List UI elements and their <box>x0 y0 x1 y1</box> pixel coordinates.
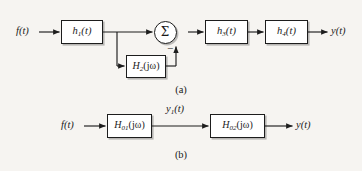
block-h2[interactable]: H2(jω) <box>126 55 166 78</box>
block-h02-label: H02(jω) <box>222 120 253 132</box>
panel-b-intermediate-label: y1(t) <box>166 104 184 116</box>
block-h4-label: h4(t) <box>277 26 296 38</box>
block-h1[interactable]: h1(t) <box>61 20 103 44</box>
panel-a-output-label: y(t) <box>331 26 346 37</box>
caption-a: (a) <box>0 85 362 96</box>
panel-b-input-label: f(t) <box>61 120 74 131</box>
sum-minus-sign: − <box>167 43 173 54</box>
panel-b-output-label: y(t) <box>296 120 311 131</box>
block-diagram-figure: f(t) h1(t) H2(jω) Σ − h3(t) h4(t) y(t) (… <box>0 0 362 171</box>
panel-a-input-label: f(t) <box>16 26 29 37</box>
sigma-symbol: Σ <box>161 25 169 39</box>
block-h02[interactable]: H02(jω) <box>210 114 265 138</box>
block-h3-label: h3(t) <box>217 26 236 38</box>
block-h4[interactable]: h4(t) <box>265 20 308 44</box>
block-h01-label: H01(jω) <box>114 120 145 132</box>
block-h3[interactable]: h3(t) <box>205 20 248 44</box>
block-h2-label: H2(jω) <box>132 61 159 73</box>
block-h01[interactable]: H01(jω) <box>107 114 152 138</box>
block-h1-label: h1(t) <box>72 26 91 38</box>
caption-b: (b) <box>0 150 362 161</box>
summing-junction[interactable]: Σ <box>154 21 177 44</box>
